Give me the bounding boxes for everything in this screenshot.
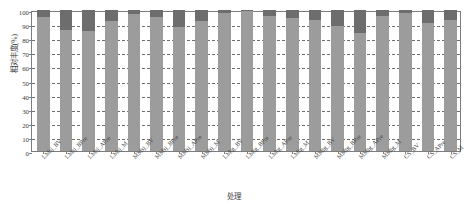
y-axis-tick-label: 100 [19, 9, 29, 16]
bar-segment [241, 11, 254, 151]
bar [354, 10, 367, 151]
bar-segment [105, 21, 118, 151]
plot-area: 0102030405060708090100 [31, 11, 461, 152]
bar-segment [263, 16, 276, 151]
x-axis-title: 处理 [0, 190, 468, 201]
y-axis-tick-mark [29, 139, 32, 140]
y-axis-tick-mark [29, 54, 32, 55]
bar-segment [286, 18, 299, 151]
y-axis-tick-mark [29, 153, 32, 154]
bar [399, 10, 412, 151]
bar-segment [218, 13, 231, 151]
bar-segment [150, 17, 163, 151]
y-axis-tick-label: 60 [22, 65, 29, 72]
y-axis-tick-label: 30 [22, 107, 29, 114]
bar-segment [444, 10, 457, 20]
bar-segment [82, 31, 95, 151]
bar [128, 10, 141, 151]
bar-segment [128, 14, 141, 151]
bar [218, 10, 231, 151]
bar [195, 10, 208, 151]
bar [286, 10, 299, 151]
bar-segment [37, 10, 50, 17]
bar [82, 10, 95, 151]
y-axis-tick-mark [29, 40, 32, 41]
y-axis-tick-label: 80 [22, 37, 29, 44]
bar [105, 10, 118, 151]
y-axis-title: 相对丰度(%) [8, 15, 19, 93]
y-axis-tick-label: 50 [22, 79, 29, 86]
bar-segment [195, 10, 208, 21]
y-axis-tick-label: 10 [22, 135, 29, 142]
y-axis-tick-label: 90 [22, 23, 29, 30]
bar-segment [82, 10, 95, 31]
chart-figure: 相对丰度(%) 0102030405060708090100 处理 LMsj_B… [0, 0, 468, 205]
bar [37, 10, 50, 151]
bar [309, 10, 322, 151]
bar-segment [309, 20, 322, 151]
bar-segment [195, 21, 208, 151]
y-axis-tick-mark [29, 83, 32, 84]
bar [444, 10, 457, 151]
bar-segment [286, 10, 299, 18]
y-axis-tick-label: 70 [22, 51, 29, 58]
y-axis-tick-label: 40 [22, 93, 29, 100]
y-axis-tick-label: 20 [22, 121, 29, 128]
bar-segment [37, 17, 50, 151]
y-axis-tick-mark [29, 97, 32, 98]
y-axis-tick-mark [29, 111, 32, 112]
bar [241, 10, 254, 151]
bar-segment [105, 10, 118, 21]
bar [150, 10, 163, 151]
bar [422, 10, 435, 151]
bar [60, 10, 73, 151]
bar-segment [173, 10, 186, 27]
y-axis-tick-mark [29, 26, 32, 27]
bars-layer [32, 12, 460, 151]
y-axis-tick-mark [29, 125, 32, 126]
bar-segment [422, 23, 435, 151]
bar-segment [60, 30, 73, 151]
bar [173, 10, 186, 151]
bar [331, 10, 344, 151]
bar-segment [354, 10, 367, 33]
bar [263, 10, 276, 151]
bar [376, 10, 389, 151]
bar-segment [444, 20, 457, 151]
bar-segment [309, 10, 322, 20]
bar-segment [60, 10, 73, 30]
bar-segment [376, 16, 389, 151]
bar-segment [331, 10, 344, 26]
y-axis-tick-mark [29, 68, 32, 69]
bar-segment [150, 10, 163, 17]
bar-segment [422, 10, 435, 23]
bar-segment [399, 13, 412, 151]
y-axis-tick-mark [29, 12, 32, 13]
bar-segment [331, 26, 344, 151]
